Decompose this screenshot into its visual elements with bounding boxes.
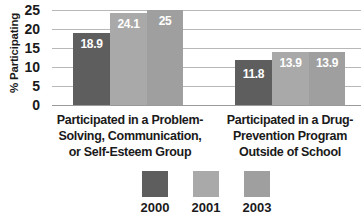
bar-value-label: 25 <box>147 14 183 28</box>
bar-2001-group-2: 13.9 <box>272 52 309 105</box>
category-label-line: Participated in a Drug- <box>222 112 358 128</box>
y-tick: 0 <box>18 98 40 112</box>
y-tick: 20 <box>18 22 40 36</box>
y-tick: 25 <box>18 3 40 17</box>
bar-2001-group-1: 24.1 <box>110 13 147 105</box>
legend-item-2001: 2001 <box>186 171 226 215</box>
bar-value-label: 11.8 <box>235 67 272 81</box>
y-tick: 5 <box>18 79 40 93</box>
bar-value-label: 13.9 <box>309 56 345 70</box>
category-label-line: Prevention Program <box>222 128 358 144</box>
bar-value-label: 24.1 <box>110 17 147 31</box>
category-label-1: Participated in a Problem- Solving, Comm… <box>55 112 205 160</box>
bar-2003-group-1: 25 <box>147 10 183 105</box>
category-label-line: or Self-Esteem Group <box>55 144 205 160</box>
bar-2000-group-1: 18.9 <box>73 33 110 105</box>
bar-value-label: 18.9 <box>73 37 110 51</box>
bar-2003-group-2: 13.9 <box>309 52 345 105</box>
legend-item-2003: 2003 <box>237 171 277 215</box>
legend-swatch <box>193 171 219 197</box>
category-label-line: Participated in a Problem- <box>55 112 205 128</box>
gridline <box>52 10 361 11</box>
legend-label: 2000 <box>135 200 175 215</box>
y-tick: 10 <box>18 60 40 74</box>
y-tick: 15 <box>18 41 40 55</box>
category-label-2: Participated in a Drug- Prevention Progr… <box>222 112 358 160</box>
legend-item-2000: 2000 <box>135 171 175 215</box>
gridline <box>52 29 361 30</box>
category-label-line: Outside of School <box>222 144 358 160</box>
x-axis-baseline <box>52 105 361 106</box>
legend-swatch <box>142 171 168 197</box>
bar-value-label: 13.9 <box>272 56 309 70</box>
legend-swatch <box>244 171 270 197</box>
category-label-line: Solving, Communication, <box>55 128 205 144</box>
bar-2000-group-2: 11.8 <box>235 60 272 105</box>
legend-label: 2001 <box>186 200 226 215</box>
legend-label: 2003 <box>237 200 277 215</box>
